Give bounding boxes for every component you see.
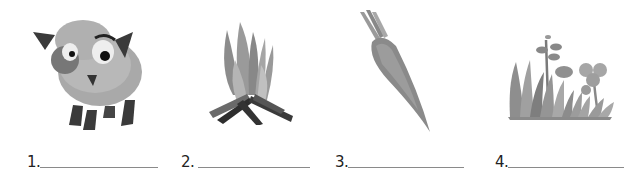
- worksheet-item-1: 1.: [0, 0, 170, 184]
- worksheet-item-2: 2.: [170, 0, 330, 184]
- answer-line-3[interactable]: [348, 167, 464, 168]
- item-number-1: 1.: [27, 153, 40, 171]
- item-number-2: 2.: [181, 153, 194, 171]
- campfire-illustration: [205, 20, 300, 125]
- sheep-illustration: [25, 10, 155, 130]
- answer-line-4[interactable]: [508, 167, 624, 168]
- grass-plants-illustration: [508, 32, 623, 122]
- worksheet-item-4: 4.: [490, 0, 641, 184]
- carrot-illustration: [358, 10, 438, 135]
- worksheet-item-3: 3.: [330, 0, 490, 184]
- answer-line-1[interactable]: [40, 167, 158, 168]
- answer-line-2[interactable]: [198, 167, 310, 168]
- item-number-4: 4.: [495, 153, 508, 171]
- item-number-3: 3.: [335, 153, 348, 171]
